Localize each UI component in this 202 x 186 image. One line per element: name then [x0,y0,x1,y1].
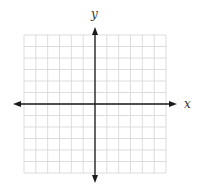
x-axis-label: x [184,97,191,111]
coordinate-plane: x y [0,0,202,186]
x-axis-left-arrow-icon [13,101,21,107]
y-axis-label: y [90,7,98,21]
x-axis-right-arrow-icon [169,101,177,107]
y-axis [92,27,98,183]
y-axis-down-arrow-icon [92,175,98,183]
y-axis-up-arrow-icon [92,27,98,35]
